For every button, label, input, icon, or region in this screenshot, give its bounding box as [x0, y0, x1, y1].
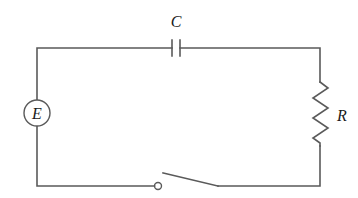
capacitor-symbol — [172, 40, 180, 56]
wire-bottom-left — [37, 126, 155, 186]
emf-source-label: E — [31, 105, 42, 122]
switch-contact — [155, 183, 162, 190]
resistor-label: R — [336, 107, 347, 124]
switch-blade — [163, 173, 218, 186]
wire-top-left — [37, 48, 172, 100]
wire-right-bottom — [218, 146, 320, 186]
resistor-symbol — [313, 82, 328, 146]
wire-top-right — [180, 48, 320, 82]
rc-circuit-diagram: C R E — [0, 0, 358, 198]
capacitor-label: C — [171, 13, 182, 30]
